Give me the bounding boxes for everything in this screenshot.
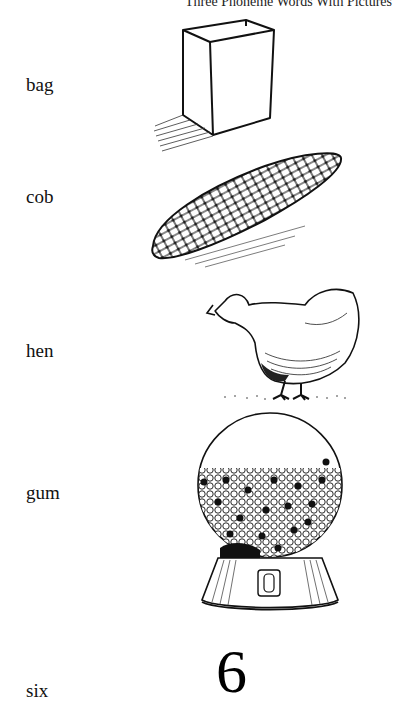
corn-cob-icon [145,148,345,268]
word-bag: bag [26,74,53,96]
word-six: six [26,680,48,702]
paper-bag-icon [150,18,280,153]
page-header: Three Phoneme Words With Pictures [185,0,392,10]
gumball-machine-icon [190,410,350,615]
word-hen: hen [26,340,53,362]
hen-icon [205,283,365,403]
word-cob: cob [26,186,53,208]
numeral-six: 6 [216,640,247,702]
word-gum: gum [26,482,60,504]
